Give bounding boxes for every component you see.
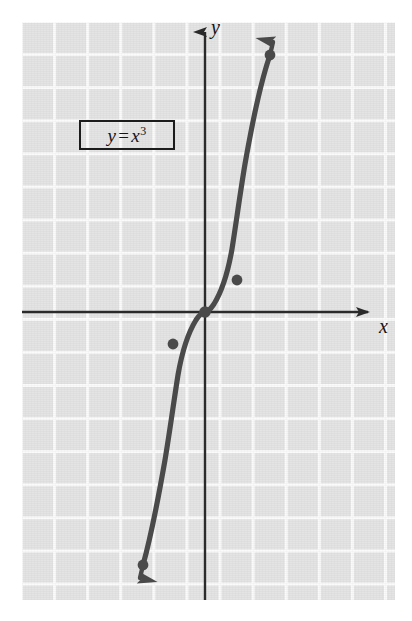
- point-neg-one: [168, 339, 179, 350]
- point-top-endpoint: [265, 50, 276, 61]
- equation-lhs: y: [107, 125, 116, 146]
- equation-equals-sign: =: [116, 125, 131, 146]
- plot-canvas: [0, 0, 412, 621]
- graph-figure: y=x3 y x: [0, 0, 412, 621]
- y-axis-label: y: [211, 16, 220, 39]
- point-origin: [199, 306, 211, 318]
- equation-label-text: y=x3: [107, 125, 146, 145]
- equation-base: x: [131, 125, 140, 146]
- equation-exponent: 3: [140, 124, 146, 138]
- point-bottom-endpoint: [138, 560, 149, 571]
- equation-label-box: y=x3: [79, 120, 175, 150]
- point-one: [232, 275, 243, 286]
- x-axis-label: x: [379, 315, 388, 338]
